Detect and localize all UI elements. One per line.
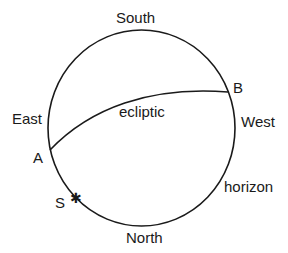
label-horizon: horizon — [224, 179, 273, 194]
star-icon: ✱ — [70, 191, 82, 205]
label-west: West — [241, 114, 275, 129]
label-star-s: S — [55, 195, 65, 210]
ecliptic-path — [50, 91, 228, 150]
label-north: North — [126, 230, 163, 245]
label-south: South — [116, 10, 155, 25]
label-east: East — [12, 111, 42, 126]
label-ecliptic: ecliptic — [119, 104, 165, 119]
label-point-b: B — [233, 80, 243, 95]
label-point-a: A — [33, 150, 43, 165]
